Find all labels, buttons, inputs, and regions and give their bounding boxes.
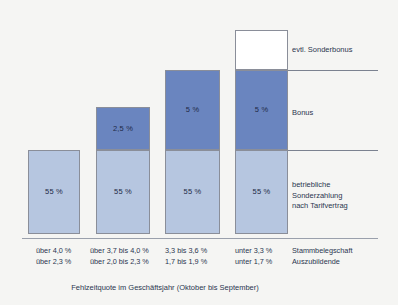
bar-column-3[interactable]: 5 % 55 % bbox=[165, 70, 220, 234]
legend-label-bonus: Bonus bbox=[292, 108, 392, 119]
tick-column-4: unter 3,3 % unter 1,7 % bbox=[235, 245, 272, 267]
bar-2-segment-base: 55 % bbox=[96, 150, 150, 234]
legend-rule-bonus-base bbox=[288, 150, 378, 151]
chart-caption: Fehlzeitquote im Geschäftsjahr (Oktober … bbox=[0, 283, 330, 292]
bar-4-bonus-label: 5 % bbox=[255, 106, 269, 114]
bar-3-base-label: 55 % bbox=[184, 188, 202, 196]
tick-column-2-line-1: über 3,7 bis 4,0 % bbox=[90, 245, 149, 256]
bar-3-segment-base: 55 % bbox=[165, 150, 220, 234]
tick-column-3-line-2: 1,7 bis 1,9 % bbox=[165, 256, 207, 267]
legend-label-base-payment: betriebliche Sonderzahlung nach Tarifver… bbox=[292, 180, 396, 212]
bar-column-2[interactable]: 2,5 % 55 % bbox=[96, 107, 150, 234]
tick-column-1: über 4,0 % über 2,3 % bbox=[36, 245, 71, 267]
plot-area: 55 % 2,5 % 55 % 5 % 55 % bbox=[0, 0, 398, 305]
bar-4-base-label: 55 % bbox=[253, 188, 271, 196]
x-axis-line bbox=[22, 238, 378, 239]
chart-root: 55 % 2,5 % 55 % 5 % 55 % bbox=[0, 0, 398, 305]
tick-column-1-line-2: über 2,3 % bbox=[36, 256, 71, 267]
bar-1-segment-base: 55 % bbox=[28, 150, 80, 234]
bar-3-segment-bonus: 5 % bbox=[165, 70, 220, 150]
bar-3-bonus-label: 5 % bbox=[186, 106, 200, 114]
tick-column-1-line-1: über 4,0 % bbox=[36, 245, 71, 256]
bar-column-1[interactable]: 55 % bbox=[28, 150, 80, 234]
tick-column-3: 3,3 bis 3,6 % 1,7 bis 1,9 % bbox=[165, 245, 207, 267]
bar-4-segment-bonus: 5 % bbox=[235, 70, 288, 150]
bar-2-bonus-label: 2,5 % bbox=[113, 125, 133, 133]
bar-4-segment-base: 55 % bbox=[235, 150, 288, 234]
bar-4-segment-special-bonus bbox=[235, 30, 288, 70]
tick-column-2: über 3,7 bis 4,0 % über 2,0 bis 2,3 % bbox=[90, 245, 149, 267]
tick-column-4-line-2: unter 1,7 % bbox=[235, 256, 272, 267]
row-legend: Stammbelegschaft Auszubildende bbox=[292, 245, 352, 267]
bar-2-segment-bonus: 2,5 % bbox=[96, 107, 150, 150]
bar-2-base-label: 55 % bbox=[114, 188, 132, 196]
legend-label-special-bonus: evtl. Sonderbonus bbox=[292, 45, 392, 56]
legend-rule-special-bonus bbox=[288, 70, 378, 71]
tick-column-2-line-2: über 2,0 bis 2,3 % bbox=[90, 256, 149, 267]
bar-1-base-label: 55 % bbox=[45, 188, 63, 196]
bar-column-4[interactable]: 5 % 55 % bbox=[235, 30, 288, 234]
row-legend-trainees: Auszubildende bbox=[292, 256, 352, 267]
tick-column-3-line-1: 3,3 bis 3,6 % bbox=[165, 245, 207, 256]
tick-column-4-line-1: unter 3,3 % bbox=[235, 245, 272, 256]
row-legend-staff: Stammbelegschaft bbox=[292, 245, 352, 256]
